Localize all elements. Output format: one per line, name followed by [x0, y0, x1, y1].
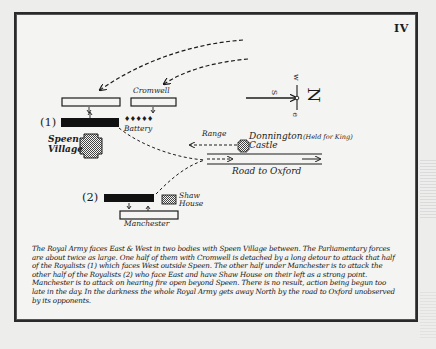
speen-label-line2: Village — [48, 144, 83, 154]
compass-east-label: e — [291, 112, 300, 117]
speen-village-marker — [80, 134, 102, 158]
road-to-oxford-label: Road to Oxford — [232, 166, 301, 176]
cromwell-label: Cromwell — [133, 86, 170, 95]
parliament-force-west-left — [62, 98, 120, 106]
speen-label-line1: Speen — [48, 134, 79, 144]
manchester-label: Manchester — [124, 219, 169, 228]
battery-guns: ♦♦♦♦♦ — [124, 115, 153, 123]
map-caption: The Royal Army faces East & West in two … — [32, 245, 400, 305]
range-label: Range — [202, 129, 226, 138]
parliament-force-manchester — [120, 211, 178, 219]
shaw-house-marker — [162, 195, 176, 204]
donnington-note: (Held for King) — [303, 133, 353, 141]
donnington-castle-marker — [238, 140, 249, 152]
compass-west-label: w — [292, 74, 301, 81]
royalist-group-2 — [104, 194, 154, 202]
battery-label: Battery — [124, 124, 152, 133]
royalist-group-1 — [61, 118, 119, 127]
road-to-oxford — [207, 154, 322, 164]
compass-north-label: N — [304, 88, 324, 103]
parliament-force-cromwell — [131, 98, 176, 106]
shaw-label-line2: House — [179, 199, 203, 208]
group-2-label: (2) — [82, 190, 98, 204]
castle-label: Castle — [249, 140, 278, 150]
compass-south-label: S — [270, 90, 279, 95]
group-1-label: (1) — [40, 115, 56, 129]
compass-rose — [246, 85, 299, 110]
cromwell-detour-arrows — [100, 40, 248, 90]
